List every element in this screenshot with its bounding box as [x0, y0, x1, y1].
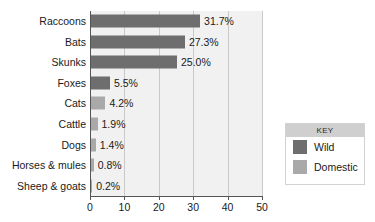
bar-value-label: 4.2% [109, 98, 133, 109]
category-label: Bats [65, 36, 86, 47]
bar-row: Raccoons31.7% [0, 11, 375, 32]
category-label: Sheep & goats [17, 180, 86, 191]
x-tick-label: 20 [153, 201, 165, 213]
bar-wrapper: 0.8% [91, 159, 122, 172]
legend-entry-domestic[interactable]: Domestic [286, 157, 364, 177]
bar-domestic[interactable] [91, 159, 94, 172]
bar-wild[interactable] [91, 35, 185, 48]
bar-domestic[interactable] [91, 118, 98, 131]
x-tick-mark-0 [90, 196, 91, 200]
category-label: Horses & mules [12, 160, 86, 171]
bar-wrapper: 25.0% [91, 56, 211, 69]
bar-domestic[interactable] [91, 97, 105, 110]
category-label: Foxes [57, 77, 86, 88]
bar-wild[interactable] [91, 56, 177, 69]
bar-row: Skunks25.0% [0, 52, 375, 73]
x-tick-mark-10 [124, 196, 125, 200]
x-tick-label: 0 [87, 201, 93, 213]
category-label: Cats [64, 98, 86, 109]
legend-entries: WildDomestic [286, 137, 364, 177]
bar-wrapper: 1.9% [91, 118, 125, 131]
x-tick-mark-40 [228, 196, 229, 200]
bar-row: Cats4.2% [0, 93, 375, 114]
bar-domestic[interactable] [91, 138, 96, 151]
bar-value-label: 27.3% [189, 36, 219, 47]
x-tick-label: 10 [119, 201, 131, 213]
x-axis-line [90, 196, 263, 197]
legend-swatch-wild [293, 140, 307, 154]
x-tick-label: 30 [187, 201, 199, 213]
bar-value-label: 1.9% [102, 119, 126, 130]
category-label: Raccoons [39, 16, 86, 27]
legend-title: KEY [316, 126, 333, 135]
bar-row: Foxes5.5% [0, 73, 375, 94]
x-tick-mark-50 [262, 196, 263, 200]
bar-value-label: 1.4% [100, 139, 124, 150]
category-label: Skunks [52, 57, 86, 68]
bar-wrapper: 4.2% [91, 97, 133, 110]
x-tick-mark-20 [159, 196, 160, 200]
bar-wild[interactable] [91, 76, 110, 89]
bar-wrapper: 31.7% [91, 15, 234, 28]
legend-swatch-domestic [293, 160, 307, 174]
category-label: Dogs [61, 139, 86, 150]
legend-box: KEY WildDomestic [285, 123, 365, 185]
legend-label: Wild [314, 141, 334, 153]
bar-domestic[interactable] [91, 179, 92, 192]
bar-wrapper: 5.5% [91, 76, 138, 89]
category-label: Cattle [59, 119, 86, 130]
bar-value-label: 5.5% [114, 77, 138, 88]
x-tick-mark-30 [193, 196, 194, 200]
bar-row: Bats27.3% [0, 32, 375, 53]
legend-label: Domestic [314, 161, 358, 173]
bar-wrapper: 1.4% [91, 138, 124, 151]
legend-entry-wild[interactable]: Wild [286, 137, 364, 157]
bar-wrapper: 27.3% [91, 35, 219, 48]
bar-value-label: 0.8% [98, 160, 122, 171]
x-tick-label: 40 [222, 201, 234, 213]
bar-wild[interactable] [91, 15, 200, 28]
legend-title-band: KEY [286, 124, 364, 137]
x-tick-label: 50 [256, 201, 268, 213]
bar-chart-figure: Raccoons31.7%Bats27.3%Skunks25.0%Foxes5.… [0, 0, 375, 222]
bar-value-label: 25.0% [181, 57, 211, 68]
bar-value-label: 31.7% [204, 16, 234, 27]
bar-value-label: 0.2% [96, 180, 120, 191]
bar-wrapper: 0.2% [91, 179, 120, 192]
